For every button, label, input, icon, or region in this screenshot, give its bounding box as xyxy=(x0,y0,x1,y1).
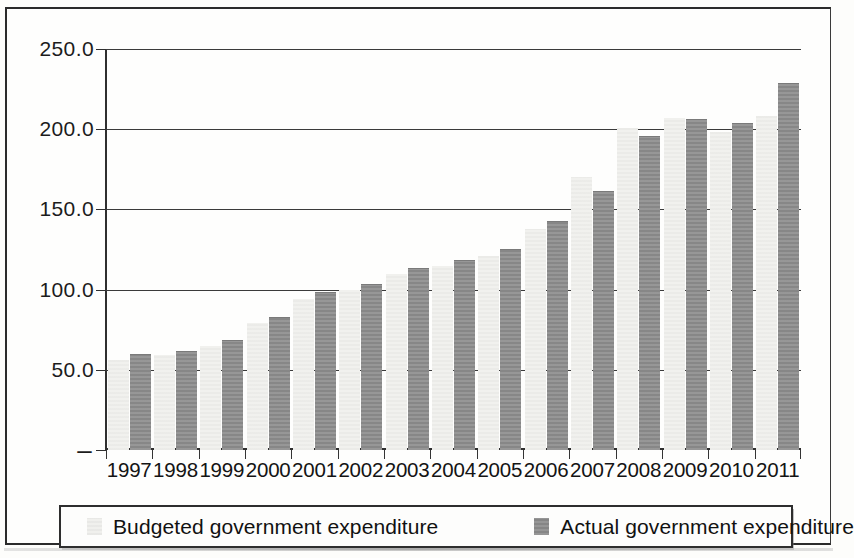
y-axis-label-150: 150.0 xyxy=(39,197,94,221)
bar-group-1997 xyxy=(106,49,152,450)
bar-budgeted-2003 xyxy=(386,274,407,450)
x-axis-label-2011: 2011 xyxy=(755,458,801,482)
x-axis-label-2001: 2001 xyxy=(291,458,337,482)
bar-group-2006 xyxy=(523,49,569,450)
bar-actual-2008 xyxy=(639,136,660,450)
bar-group-2001 xyxy=(291,49,337,450)
bar-actual-2006 xyxy=(547,221,568,450)
bar-budgeted-2011 xyxy=(756,116,777,450)
bar-budgeted-2001 xyxy=(293,299,314,450)
bar-budgeted-2004 xyxy=(432,266,453,450)
bar-budgeted-2008 xyxy=(617,128,638,450)
x-axis-label-2000: 2000 xyxy=(245,458,291,482)
bar-group-2008 xyxy=(616,49,662,450)
bar-actual-1999 xyxy=(222,340,243,450)
bar-actual-2000 xyxy=(269,317,290,450)
bar-actual-2011 xyxy=(778,83,799,450)
y-tick-0 xyxy=(96,450,106,451)
bar-budgeted-2002 xyxy=(339,290,360,450)
legend-swatch-actual-icon xyxy=(534,518,549,535)
y-tick-150 xyxy=(96,209,106,210)
bar-group-2009 xyxy=(662,49,708,450)
y-tick-100 xyxy=(96,290,106,291)
legend-swatch-budgeted-icon xyxy=(87,518,102,535)
bar-budgeted-2006 xyxy=(525,229,546,450)
bar-group-2010 xyxy=(708,49,754,450)
x-axis-label-2009: 2009 xyxy=(662,458,708,482)
y-axis-label-250: 250.0 xyxy=(39,37,94,61)
x-axis-label-2010: 2010 xyxy=(708,458,754,482)
bar-budgeted-2000 xyxy=(247,323,268,450)
bar-budgeted-1998 xyxy=(154,355,175,450)
y-axis-label-100: 100.0 xyxy=(39,278,94,302)
bar-group-2000 xyxy=(245,49,291,450)
bar-actual-1997 xyxy=(130,354,151,450)
bar-actual-2007 xyxy=(593,191,614,450)
legend-label-actual: Actual government expenditure xyxy=(560,515,854,539)
bar-actual-2003 xyxy=(408,268,429,450)
x-axis-label-2008: 2008 xyxy=(616,458,662,482)
x-axis-label-2007: 2007 xyxy=(569,458,615,482)
bar-series-container xyxy=(106,49,801,450)
bar-group-2011 xyxy=(755,49,801,450)
bar-actual-1998 xyxy=(176,351,197,450)
bar-actual-2010 xyxy=(732,123,753,450)
y-axis-label-0: – xyxy=(77,446,92,454)
y-axis-label-50: 50.0 xyxy=(52,358,94,382)
bar-budgeted-2005 xyxy=(478,256,499,450)
bar-group-1999 xyxy=(199,49,245,450)
bar-group-2007 xyxy=(569,49,615,450)
bar-budgeted-2010 xyxy=(710,132,731,450)
y-tick-250 xyxy=(96,49,106,50)
bar-actual-2001 xyxy=(315,292,336,450)
x-axis-label-1997: 1997 xyxy=(106,458,152,482)
bar-budgeted-1999 xyxy=(200,346,221,450)
bar-budgeted-2007 xyxy=(571,177,592,450)
legend-item-budgeted: Budgeted government expenditure xyxy=(87,515,438,539)
y-tick-200 xyxy=(96,129,106,130)
bar-actual-2004 xyxy=(454,260,475,450)
x-axis-label-2005: 2005 xyxy=(477,458,523,482)
bar-actual-2005 xyxy=(500,249,521,451)
bar-group-2005 xyxy=(477,49,523,450)
legend-label-budgeted: Budgeted government expenditure xyxy=(113,515,438,539)
x-axis-label-2003: 2003 xyxy=(384,458,430,482)
bar-actual-2002 xyxy=(361,284,382,450)
bar-group-2004 xyxy=(430,49,476,450)
x-axis-label-1999: 1999 xyxy=(199,458,245,482)
bar-group-2002 xyxy=(338,49,384,450)
x-axis-label-2004: 2004 xyxy=(430,458,476,482)
bar-budgeted-1997 xyxy=(108,360,129,450)
chart-frame: 250.0200.0150.0100.050.0– 19971998199920… xyxy=(5,7,831,545)
x-axis-label-1998: 1998 xyxy=(152,458,198,482)
bar-actual-2009 xyxy=(686,119,707,450)
y-tick-50 xyxy=(96,370,106,371)
plot-area: 250.0200.0150.0100.050.0– xyxy=(106,49,801,450)
chart-legend: Budgeted government expenditure Actual g… xyxy=(59,505,793,548)
bar-group-1998 xyxy=(152,49,198,450)
x-axis-tick-labels: 1997199819992000200120022003200420052006… xyxy=(106,458,801,482)
legend-item-actual: Actual government expenditure xyxy=(534,515,854,539)
bar-group-2003 xyxy=(384,49,430,450)
x-axis-label-2002: 2002 xyxy=(338,458,384,482)
bar-budgeted-2009 xyxy=(664,118,685,450)
x-axis-label-2006: 2006 xyxy=(523,458,569,482)
y-axis-label-200: 200.0 xyxy=(39,117,94,141)
